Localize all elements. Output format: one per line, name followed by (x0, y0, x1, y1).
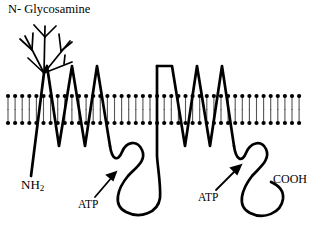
lipid-head (56, 94, 60, 98)
lipid-head (233, 121, 237, 125)
lipid-head (112, 94, 116, 98)
c-terminus-label: COOH (273, 173, 307, 185)
glycan-branch-right-fork-a (59, 34, 61, 51)
lipid-head (233, 94, 237, 98)
lipid-head (134, 94, 138, 98)
phospholipid-bilayer (6, 94, 301, 125)
lipid-head (205, 94, 209, 98)
glycan-branch-lowleft (28, 58, 44, 73)
glycan-branch-center-fork-a (34, 25, 45, 37)
lipid-head (98, 121, 102, 125)
lipid-head (276, 94, 280, 98)
glycan-branch-lowright-fork (64, 55, 65, 64)
lipid-head (6, 94, 10, 98)
lipid-head (13, 121, 17, 125)
lipid-head (70, 121, 74, 125)
lipid-head (290, 121, 294, 125)
lipid-head (148, 94, 152, 98)
glycan-branch-left (25, 36, 44, 73)
lipid-head (198, 121, 202, 125)
lipid-head (283, 94, 287, 98)
lipid-head (162, 121, 166, 125)
glycan-branch-right-fork-b (61, 42, 72, 51)
lipid-head (20, 121, 24, 125)
transmembrane-protein-chain (31, 66, 283, 216)
lipid-head (112, 121, 116, 125)
lipid-head (212, 94, 216, 98)
lipid-head (127, 94, 131, 98)
atp-arrow-first-head (107, 172, 116, 180)
lipid-head (183, 94, 187, 98)
lipid-head (162, 94, 166, 98)
lipid-head (105, 94, 109, 98)
lipid-head (6, 121, 10, 125)
atp-annotation-arrows (95, 165, 241, 197)
lipid-head (191, 121, 195, 125)
lipid-head (27, 121, 31, 125)
lipid-head (283, 121, 287, 125)
membrane-protein-diagram: N- Glycosamine NH2 ATP ATP COOH (0, 0, 329, 229)
lipid-head (169, 121, 173, 125)
lipid-head (27, 94, 31, 98)
lipid-head (84, 94, 88, 98)
glycosamine-label: N- Glycosamine (8, 3, 90, 16)
lipid-head (91, 121, 95, 125)
lipid-head (169, 94, 173, 98)
lipid-head (120, 121, 124, 125)
lipid-head (13, 94, 17, 98)
lipid-head (49, 121, 53, 125)
glycan-branch-center (44, 26, 45, 73)
lipid-head (297, 94, 301, 98)
atp-label-second: ATP (198, 192, 218, 204)
lipid-head (247, 94, 251, 98)
lipid-head (70, 94, 74, 98)
lipid-head (240, 94, 244, 98)
lipid-head (269, 94, 273, 98)
atp-arrow-first-shaft (95, 176, 113, 197)
lipid-head (240, 121, 244, 125)
glycan-branch-left-fork-b (32, 33, 33, 50)
lipid-head (141, 121, 145, 125)
lipid-head (219, 94, 223, 98)
lipid-head (262, 121, 266, 125)
atp-label-first: ATP (78, 199, 98, 211)
diagram-canvas (0, 0, 329, 229)
lipid-head (290, 94, 294, 98)
lipid-head (120, 94, 124, 98)
lipid-head (134, 121, 138, 125)
lipid-head (34, 94, 38, 98)
atp-arrow-second-shaft (216, 169, 237, 190)
lipid-head (262, 94, 266, 98)
lipid-head (276, 121, 280, 125)
lipid-head (219, 121, 223, 125)
lipid-head (141, 94, 145, 98)
n-terminus-label: NH2 (21, 178, 44, 191)
transmembrane-helix-bundle-2 (157, 66, 234, 146)
nucleotide-binding-loop-1 (110, 66, 160, 215)
lipid-head (127, 121, 131, 125)
lipid-head (20, 94, 24, 98)
lipid-head (254, 94, 258, 98)
lipid-head (297, 121, 301, 125)
n-terminus-text: NH (21, 177, 40, 192)
lipid-head (254, 121, 258, 125)
lipid-head (269, 121, 273, 125)
lipid-head (247, 121, 251, 125)
glycan-branch-center-fork-b (45, 26, 56, 37)
n-terminus-subscript: 2 (40, 183, 45, 193)
lipid-head (41, 121, 45, 125)
lipid-head (148, 121, 152, 125)
